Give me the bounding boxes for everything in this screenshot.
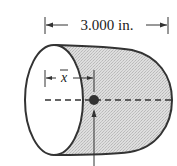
length-dimension: 3.000 in. (45, 17, 168, 34)
length-label: 3.000 in. (81, 17, 134, 33)
open-end-face (25, 45, 83, 155)
centroid-point (89, 95, 99, 105)
arrowhead-left-icon (46, 23, 53, 28)
arrowhead-right-icon (160, 23, 167, 28)
centroid-label: x (60, 70, 68, 85)
centroid-figure: 3.000 in. x (0, 0, 177, 166)
